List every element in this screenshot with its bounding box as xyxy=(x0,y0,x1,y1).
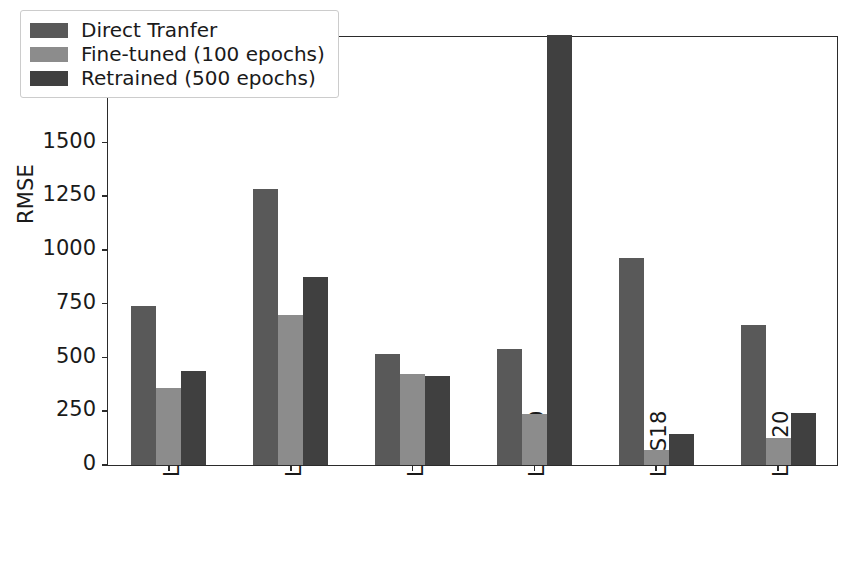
bar-L3S18-fine-tuned-100-epochs- xyxy=(644,450,669,465)
bar-L2S17-fine-tuned-100-epochs- xyxy=(278,315,303,466)
y-tick-mark xyxy=(102,195,108,197)
bar-L1S19-direct-tranfer xyxy=(131,306,156,465)
bar-L2S18-retrained-500-epochs- xyxy=(425,376,450,465)
legend-swatch-icon xyxy=(30,23,68,38)
figure-canvas: 025050075010001250150017502000 L1S19L2S1… xyxy=(0,0,868,564)
bar-L3S18-direct-tranfer xyxy=(619,258,644,465)
bar-L2S20-retrained-500-epochs- xyxy=(547,35,572,465)
y-tick-mark xyxy=(102,410,108,412)
chart-legend: Direct TranferFine-tuned (100 epochs)Ret… xyxy=(20,10,339,98)
legend-label: Direct Tranfer xyxy=(81,20,217,40)
legend-item: Retrained (500 epochs) xyxy=(30,66,325,90)
y-tick-label: 0 xyxy=(83,451,96,475)
y-tick-mark xyxy=(102,249,108,251)
legend-item: Direct Tranfer xyxy=(30,18,325,42)
legend-item: Fine-tuned (100 epochs) xyxy=(30,42,325,66)
legend-swatch-icon xyxy=(30,47,68,62)
bar-L2S17-direct-tranfer xyxy=(253,189,278,465)
y-tick-mark xyxy=(102,464,108,466)
y-tick-label: 1250 xyxy=(43,182,96,206)
y-tick-mark xyxy=(102,357,108,359)
bar-L3S20-fine-tuned-100-epochs- xyxy=(766,438,791,465)
bar-L3S20-retrained-500-epochs- xyxy=(791,413,816,465)
bar-L2S18-fine-tuned-100-epochs- xyxy=(400,374,425,465)
plot-area: 025050075010001250150017502000 L1S19L2S1… xyxy=(107,36,838,466)
legend-swatch-icon xyxy=(30,71,68,86)
bar-L3S20-direct-tranfer xyxy=(741,325,766,465)
bar-L2S18-direct-tranfer xyxy=(375,354,400,465)
y-tick-label: 250 xyxy=(56,397,96,421)
bar-L3S18-retrained-500-epochs- xyxy=(669,434,694,465)
bar-L2S20-fine-tuned-100-epochs- xyxy=(522,414,547,465)
y-tick-mark xyxy=(102,142,108,144)
legend-label: Fine-tuned (100 epochs) xyxy=(81,44,325,64)
y-tick-label: 500 xyxy=(56,344,96,368)
y-axis-title: RMSE xyxy=(14,114,38,274)
y-tick-label: 1000 xyxy=(43,236,96,260)
bar-L2S20-direct-tranfer xyxy=(497,349,522,465)
bar-L1S19-retrained-500-epochs- xyxy=(181,371,206,465)
bar-L1S19-fine-tuned-100-epochs- xyxy=(156,388,181,465)
y-tick-mark xyxy=(102,303,108,305)
x-tick-label: L3S18 xyxy=(647,410,671,477)
y-tick-label: 1500 xyxy=(43,129,96,153)
bar-L2S17-retrained-500-epochs- xyxy=(303,277,328,465)
y-tick-label: 750 xyxy=(56,290,96,314)
legend-label: Retrained (500 epochs) xyxy=(81,68,316,88)
